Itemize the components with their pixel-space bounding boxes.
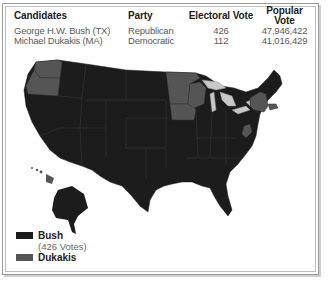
map-legend: Bush (426 Votes) Dukakis <box>16 230 87 263</box>
map-state-ak <box>52 186 88 234</box>
legend-label: Dukakis <box>38 252 76 263</box>
results-table: Candidates Party Electoral Vote Popular … <box>14 6 314 46</box>
header-popular-vote: Popular Vote <box>255 6 314 26</box>
legend-item-bush: Bush <box>16 230 87 241</box>
legend-item-dukakis: Dukakis <box>16 252 87 263</box>
us-electoral-map <box>6 48 306 238</box>
legend-label: Bush <box>38 230 63 241</box>
map-state-ma-ri <box>268 104 278 110</box>
table-row: Michael Dukakis (MA) Democratic 112 41,0… <box>14 36 314 46</box>
candidate-name: Michael Dukakis (MA) <box>14 36 120 46</box>
candidate-party: Democratic <box>120 36 187 46</box>
dukakis-swatch <box>16 254 33 261</box>
electoral-vote: 112 <box>187 36 255 46</box>
table-header-row: Candidates Party Electoral Vote Popular … <box>14 6 314 26</box>
map-state-hi <box>31 167 54 184</box>
popular-vote: 41,016,429 <box>255 36 314 46</box>
results-table-container: Candidates Party Electoral Vote Popular … <box>14 6 314 46</box>
legend-sub: (426 Votes) <box>16 241 87 252</box>
header-electoral-vote: Electoral Vote <box>187 6 255 26</box>
bush-swatch <box>16 232 33 239</box>
map-state-wi <box>188 82 206 108</box>
header-party: Party <box>120 6 187 26</box>
header-candidates: Candidates <box>14 6 120 26</box>
